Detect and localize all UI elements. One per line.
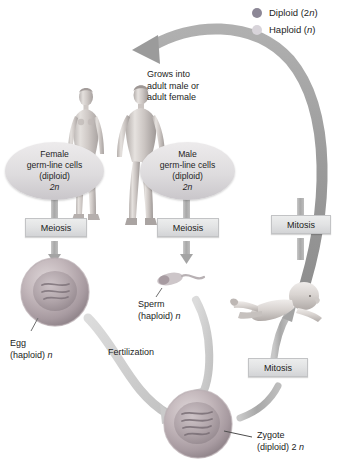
meiosis-male-label: Meiosis xyxy=(173,223,204,233)
mitosis-lower-label: Mitosis xyxy=(264,363,292,373)
legend-dot-haploid xyxy=(252,25,262,35)
male-germline-ploidy: 2n xyxy=(183,182,193,193)
female-germline-line3: (diploid) xyxy=(39,171,70,182)
legend: Diploid (2n) Haploid (n) xyxy=(252,6,318,40)
female-germline-line1: Female xyxy=(40,149,69,160)
sperm-line1: Sperm xyxy=(138,299,181,311)
male-germline-line3: (diploid) xyxy=(172,171,203,182)
zygote-line2: (diploid) 2 n xyxy=(257,442,304,454)
callout-female-germline: Female germ-line cells (diploid) 2n xyxy=(5,142,104,200)
process-box-meiosis-male: Meiosis xyxy=(157,218,219,237)
zygote-annotation: Zygote (diploid) 2 n xyxy=(257,430,304,453)
sperm-annotation: Sperm (haploid) n xyxy=(138,299,181,322)
diagram-canvas: Diploid (2n) Haploid (n) Grows into adul… xyxy=(0,0,343,465)
process-box-mitosis-lower: Mitosis xyxy=(248,358,308,377)
legend-item-diploid: Diploid (2n) xyxy=(252,6,318,19)
egg-annotation: Egg (haploid) n xyxy=(10,338,53,361)
egg-line1: Egg xyxy=(10,338,53,350)
female-germline-ploidy: 2n xyxy=(50,182,60,193)
grows-into-line3: adult female xyxy=(147,92,199,104)
sperm-line2: (haploid) n xyxy=(138,311,181,323)
male-germline-line1: Male xyxy=(178,149,197,160)
meiosis-female-label: Meiosis xyxy=(41,223,72,233)
process-box-meiosis-female: Meiosis xyxy=(25,218,87,237)
male-germline-line2: germ-line cells xyxy=(160,160,215,171)
callout-male-germline: Male germ-line cells (diploid) 2n xyxy=(140,142,235,200)
legend-item-haploid: Haploid (n) xyxy=(252,23,318,36)
legend-dot-diploid xyxy=(252,8,262,18)
zygote-line1: Zygote xyxy=(257,430,304,442)
process-box-mitosis-right: Mitosis xyxy=(271,215,331,234)
legend-label-diploid: Diploid (2n) xyxy=(269,7,318,18)
legend-label-haploid: Haploid (n) xyxy=(269,24,316,35)
grows-into-line1: Grows into xyxy=(147,69,199,81)
grows-into-line2: adult male or xyxy=(147,81,199,93)
fertilization-annotation: Fertilization xyxy=(108,347,154,359)
fertilization-label: Fertilization xyxy=(108,347,154,359)
diagram-labels: Grows into adult male or adult female Fe… xyxy=(0,0,343,465)
female-germline-line2: germ-line cells xyxy=(27,160,82,171)
mitosis-right-label: Mitosis xyxy=(287,220,315,230)
grows-into-annotation: Grows into adult male or adult female xyxy=(147,69,199,104)
egg-line2: (haploid) n xyxy=(10,350,53,362)
